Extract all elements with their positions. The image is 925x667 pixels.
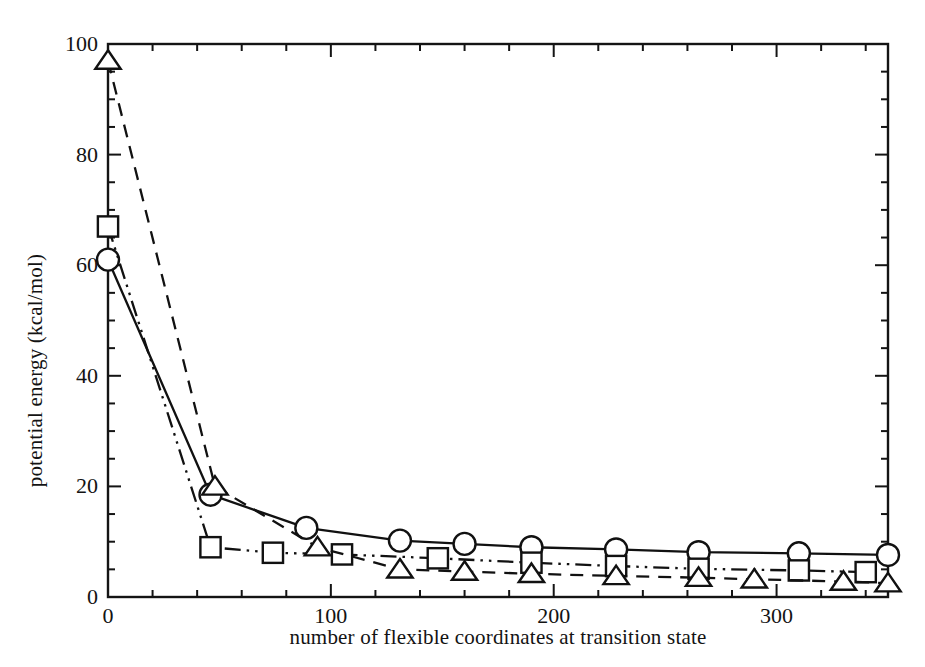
data-point-square-open bbox=[200, 537, 220, 557]
y-tick-label: 80 bbox=[40, 142, 98, 168]
data-point-triangle-open bbox=[742, 569, 767, 587]
data-point-circle-open bbox=[877, 544, 899, 566]
data-point-square-open bbox=[98, 216, 118, 236]
data-point-circle-open bbox=[97, 249, 119, 271]
axis-ticks bbox=[108, 44, 888, 597]
y-tick-label: 20 bbox=[40, 473, 98, 499]
data-point-circle-open bbox=[389, 530, 411, 552]
plot-frame bbox=[108, 44, 888, 597]
series-squares bbox=[98, 216, 876, 582]
y-tick-label: 60 bbox=[40, 252, 98, 278]
plot-area bbox=[0, 0, 925, 667]
data-point-square-open bbox=[856, 562, 876, 582]
x-tick-label: 300 bbox=[760, 603, 793, 629]
data-point-triangle-open bbox=[95, 50, 120, 68]
series-line bbox=[108, 226, 866, 572]
series-triangles bbox=[95, 50, 900, 591]
series-circles bbox=[97, 249, 899, 566]
x-tick-label: 200 bbox=[537, 603, 570, 629]
series-line bbox=[108, 61, 888, 584]
x-tick-label: 0 bbox=[103, 603, 114, 629]
series-line bbox=[108, 260, 888, 555]
data-point-square-open bbox=[789, 560, 809, 580]
data-point-square-open bbox=[428, 548, 448, 568]
data-point-triangle-open bbox=[387, 559, 412, 577]
data-point-circle-open bbox=[454, 533, 476, 555]
y-tick-label: 100 bbox=[40, 31, 98, 57]
data-point-square-open bbox=[263, 543, 283, 563]
chart-figure: potential energy (kcal/mol) number of fl… bbox=[0, 0, 925, 667]
data-point-triangle-open bbox=[452, 561, 477, 579]
y-tick-label: 0 bbox=[40, 584, 98, 610]
x-tick-label: 100 bbox=[314, 603, 347, 629]
y-tick-label: 40 bbox=[40, 363, 98, 389]
